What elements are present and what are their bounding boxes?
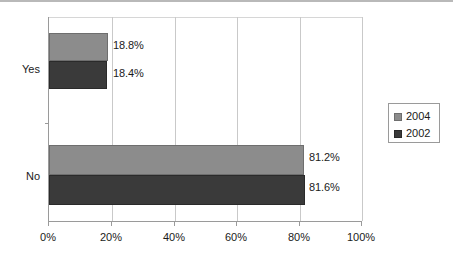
xaxis-label-40: 40% (163, 231, 185, 243)
yaxis-label-yes: Yes (0, 63, 40, 75)
legend-label-2004: 2004 (406, 111, 430, 122)
plot-area: 18.8% 18.4% 81.2% 81.6% (48, 17, 362, 222)
chart-screenshot: 18.8% 18.4% 81.2% 81.6% 0% 20% 40% 60% 8… (0, 0, 453, 260)
bar-no-2004[interactable] (49, 145, 304, 175)
plot-top-border (49, 17, 362, 18)
bar-label-no-2002: 81.6% (309, 181, 340, 193)
legend-swatch-icon-2002 (394, 130, 402, 138)
legend-label-2002: 2002 (406, 128, 430, 139)
xtick-mark-80 (299, 222, 300, 226)
bar-yes-2002[interactable] (49, 61, 107, 89)
xtick-mark-60 (236, 222, 237, 226)
yaxis-label-no: No (0, 170, 40, 182)
bar-label-yes-2004: 18.8% (113, 39, 144, 51)
legend: 2004 2002 (388, 103, 440, 143)
xtick-mark-100 (361, 222, 362, 226)
legend-swatch-icon-2004 (394, 113, 402, 121)
xaxis-label-100: 100% (347, 231, 375, 243)
gridline-100 (362, 17, 363, 221)
bar-yes-2004[interactable] (49, 33, 108, 61)
bar-label-no-2004: 81.2% (309, 151, 340, 163)
xtick-mark-40 (174, 222, 175, 226)
xaxis-label-80: 80% (288, 231, 310, 243)
xaxis-label-20: 20% (100, 231, 122, 243)
xaxis-label-0: 0% (40, 231, 56, 243)
top-divider (0, 0, 453, 2)
xtick-mark-20 (111, 222, 112, 226)
xtick-mark-0 (48, 222, 49, 226)
legend-item-2004[interactable]: 2004 (394, 111, 430, 122)
bar-no-2002[interactable] (49, 175, 305, 205)
xaxis-label-60: 60% (225, 231, 247, 243)
legend-item-2002[interactable]: 2002 (394, 128, 430, 139)
category-axis-tick (45, 123, 49, 124)
bar-label-yes-2002: 18.4% (113, 67, 144, 79)
